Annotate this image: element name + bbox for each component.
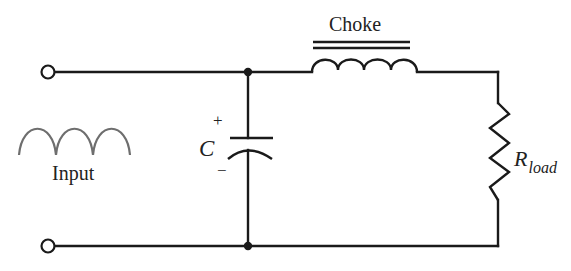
choke-label: Choke — [329, 14, 381, 34]
capacitor-plus-label: + — [213, 112, 223, 129]
bottom-wire — [54, 200, 498, 246]
input-label: Input — [52, 163, 94, 183]
load-resistor-label-subscript: load — [528, 159, 556, 176]
input-terminal-bottom — [42, 240, 55, 253]
rectified-waveform-icon — [19, 129, 130, 155]
capacitor-minus-label: − — [217, 162, 227, 179]
load-resistor-label-main: R — [514, 146, 527, 171]
top-wire — [54, 72, 498, 103]
load-resistor-label: Rload — [514, 148, 557, 170]
capacitor-symbol — [228, 72, 273, 246]
choke-inductor-symbol — [312, 42, 417, 72]
load-resistor-symbol — [490, 103, 509, 200]
capacitor-label: C — [199, 137, 214, 160]
input-terminal-top — [42, 66, 55, 79]
circuit-diagram — [0, 0, 571, 271]
